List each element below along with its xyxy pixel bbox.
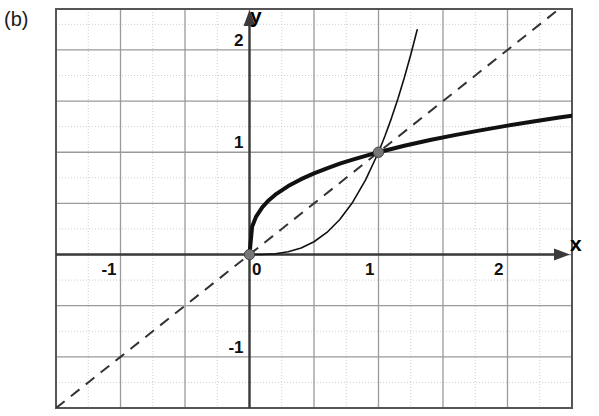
panel-label: (b) [4,8,28,31]
x-tick-label: 1 [345,260,375,280]
x-tick-label: 0 [232,260,262,280]
y-tick-label: -1 [214,338,244,358]
x-tick-label: 2 [474,260,504,280]
figure-panel-b: (b) -1012-112 x y [0,0,599,416]
x-axis-label: x [570,232,582,256]
plot-area [0,0,599,416]
y-tick-label: 2 [214,31,244,51]
y-axis-label: y [250,4,262,28]
y-tick-label: 1 [214,133,244,153]
x-tick-label: -1 [87,260,117,280]
